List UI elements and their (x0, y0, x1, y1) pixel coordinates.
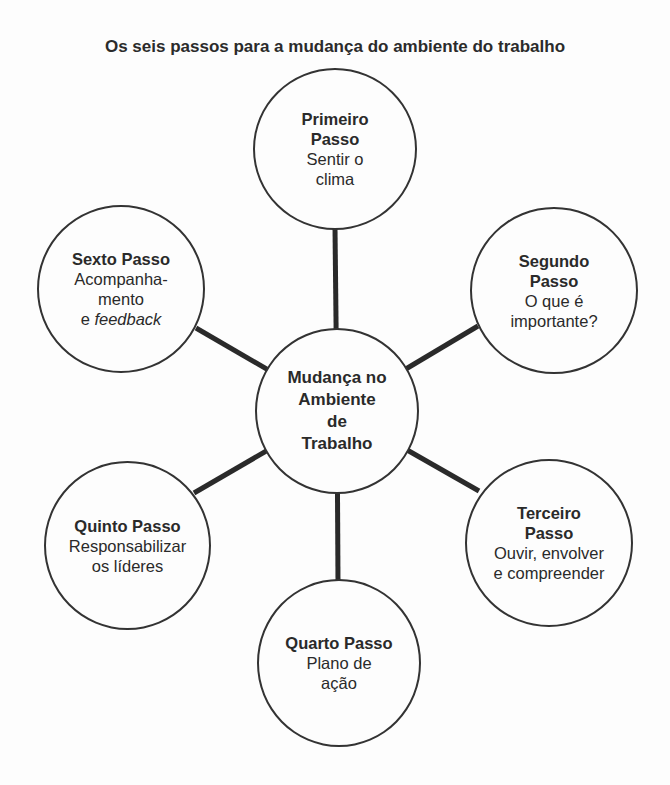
step-node-3: Terceiro Passo Ouvir, envolver e compree… (465, 459, 633, 627)
step-description: Acompanha- (74, 269, 168, 289)
step-heading: Passo (525, 523, 574, 543)
step-node-6: Sexto Passo Acompanha- mento e feedback (37, 205, 205, 373)
step-heading: Passo (530, 271, 579, 291)
step-description-italic: feedback (94, 310, 161, 328)
step-description: mento (98, 289, 144, 309)
step-description: os líderes (92, 556, 164, 576)
step-description: clima (316, 169, 355, 189)
center-line: Trabalho (302, 433, 373, 455)
step-description: Ouvir, envolver (494, 543, 604, 563)
step-description: importante? (510, 311, 597, 331)
step-heading: Terceiro (517, 503, 581, 523)
step-description: Sentir o (307, 149, 364, 169)
step-heading: Quarto Passo (285, 633, 392, 653)
step-heading: Sexto Passo (72, 249, 170, 269)
center-line: de (327, 411, 347, 433)
step-description: ação (321, 673, 357, 693)
center-line: Ambiente (298, 389, 375, 411)
step-description: Responsabilizar (69, 536, 186, 556)
step-node-2: Segundo Passo O que é importante? (470, 207, 638, 374)
center-node: Mudança no Ambiente de Trabalho (255, 328, 419, 494)
step-description: e feedback (81, 309, 162, 329)
step-node-5: Quinto Passo Responsabilizar os líderes (44, 461, 211, 630)
step-description: O que é (525, 291, 584, 311)
step-heading: Quinto Passo (74, 516, 180, 536)
step-heading: Passo (311, 129, 360, 149)
step-node-1: Primeiro Passo Sentir o clima (253, 68, 417, 230)
step-description: Plano de (306, 653, 371, 673)
step-heading: Primeiro (302, 109, 369, 129)
step-node-4: Quarto Passo Plano de ação (257, 579, 421, 747)
step-description-prefix: e (81, 310, 95, 328)
center-line: Mudança no (287, 367, 386, 389)
step-heading: Segundo (519, 251, 590, 271)
step-description: e compreender (494, 563, 605, 583)
